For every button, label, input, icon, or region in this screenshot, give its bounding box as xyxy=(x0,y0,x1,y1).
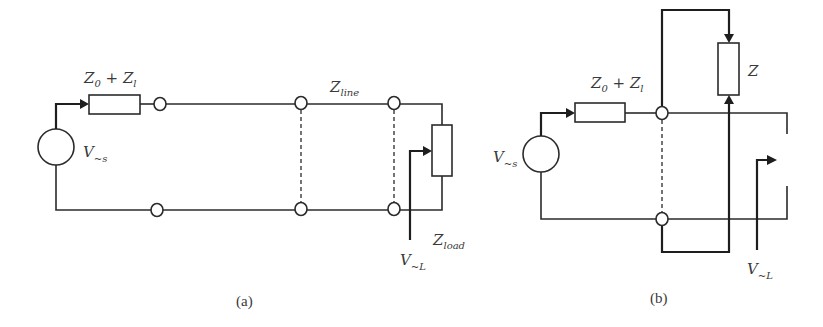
load-voltage-probe-a xyxy=(410,151,425,240)
terminal-node xyxy=(151,204,163,217)
terminal-node xyxy=(388,203,400,216)
arrow-icon xyxy=(724,34,734,43)
source-top-wire-a xyxy=(56,104,82,129)
caption-a: (a) xyxy=(236,293,253,310)
load-resistor-a xyxy=(432,125,452,176)
lower-loop-wire xyxy=(662,102,729,252)
source-voltage-label-a: V~s xyxy=(83,143,107,164)
series-impedance-resistor-b xyxy=(575,103,625,122)
terminal-node xyxy=(656,213,668,226)
voltage-source-a xyxy=(38,129,74,165)
bottom-line-b xyxy=(541,172,656,219)
terminal-node xyxy=(154,98,166,111)
arrow-icon xyxy=(80,99,89,109)
arrow-icon xyxy=(423,146,432,156)
impedance-resistor-z xyxy=(718,43,739,95)
series-impedance-resistor-a xyxy=(89,95,140,114)
source-top-wire-b xyxy=(541,113,568,136)
series-impedance-label-b: Z0 + Zl xyxy=(590,74,644,94)
load-voltage-label-a: V~L xyxy=(400,251,426,272)
series-impedance-label-a: Z0 + Zl xyxy=(83,69,137,89)
load-voltage-label-b: V~L xyxy=(747,260,773,281)
source-voltage-label-b: V~s xyxy=(493,148,517,169)
circuit-figure: Z0 + Zl Zline V~s Zload V~L (a) xyxy=(0,0,823,327)
panel-b: Z0 + Zl Z V~s V~L (b) xyxy=(493,10,787,307)
arrow-icon xyxy=(566,108,575,118)
top-line-b xyxy=(668,113,787,134)
panel-a: Z0 + Zl Zline V~s Zload V~L (a) xyxy=(38,69,465,310)
terminal-node xyxy=(295,97,307,110)
voltage-source-b xyxy=(523,136,559,172)
load-impedance-label: Zload xyxy=(432,231,465,251)
arrow-icon xyxy=(767,155,777,165)
line-impedance-label: Zline xyxy=(329,78,359,98)
caption-b: (b) xyxy=(650,290,668,307)
terminal-node xyxy=(656,107,668,120)
load-voltage-probe-b xyxy=(757,160,769,250)
arrow-icon xyxy=(724,95,734,104)
impedance-label-z: Z xyxy=(747,62,759,80)
terminal-node xyxy=(295,203,307,216)
bottom-line-a xyxy=(56,165,152,210)
terminal-node xyxy=(388,97,400,110)
